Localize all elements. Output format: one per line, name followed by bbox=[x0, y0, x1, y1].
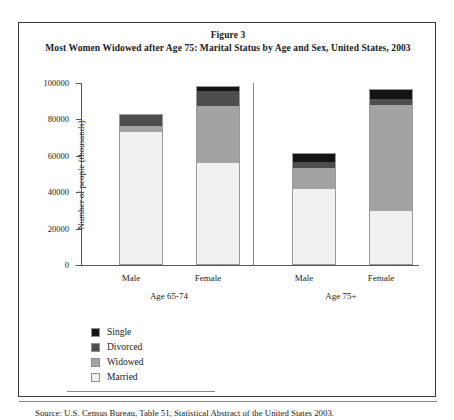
y-tick-20000: 20000 bbox=[76, 229, 81, 230]
legend-swatch-divorced bbox=[91, 343, 100, 352]
legend-label-single: Single bbox=[107, 328, 131, 338]
figure-screenshot: Figure 3 Most Women Widowed after Age 75… bbox=[0, 0, 454, 420]
y-tick-60000: 60000 bbox=[76, 156, 81, 157]
group-label-age-65-74: Age 65-74 bbox=[109, 291, 229, 301]
figure-title: Figure 3 Most Women Widowed after Age 75… bbox=[19, 29, 437, 55]
bar-segment-married bbox=[120, 132, 162, 264]
bar-segment-married bbox=[293, 189, 335, 264]
figure-title-line2: Most Women Widowed after Age 75: Marital… bbox=[19, 42, 437, 55]
x-label-male-65-74: Male bbox=[101, 273, 161, 283]
legend-swatch-single bbox=[91, 328, 100, 337]
y-tick-label-80000: 80000 bbox=[48, 115, 69, 124]
legend-rule bbox=[67, 391, 215, 392]
y-tick-label-20000: 20000 bbox=[48, 224, 69, 233]
y-tick-label-100000: 100000 bbox=[44, 79, 70, 88]
bar-segment-divorced bbox=[120, 115, 162, 126]
bar-segment-single bbox=[370, 90, 412, 99]
y-axis-line bbox=[81, 83, 82, 266]
y-tick-80000: 80000 bbox=[76, 119, 81, 120]
plot-area: Number of people (thousands) 100000 8000… bbox=[81, 83, 419, 266]
bar-male-75plus[interactable] bbox=[292, 153, 336, 265]
group-label-age-75plus: Age 75+ bbox=[281, 291, 401, 301]
bar-segment-married bbox=[197, 163, 239, 264]
figure-title-line1: Figure 3 bbox=[19, 29, 437, 42]
source-rule bbox=[19, 401, 437, 402]
legend-item-married[interactable]: Married bbox=[91, 370, 144, 385]
legend-label-married: Married bbox=[107, 373, 138, 383]
y-tick-40000: 40000 bbox=[76, 192, 81, 193]
x-label-male-75plus: Male bbox=[274, 273, 334, 283]
legend-label-widowed: Widowed bbox=[107, 358, 144, 368]
panel-divider bbox=[253, 83, 254, 266]
figure-frame: Figure 3 Most Women Widowed after Age 75… bbox=[18, 22, 436, 397]
legend-swatch-widowed bbox=[91, 358, 100, 367]
legend-item-single[interactable]: Single bbox=[91, 325, 144, 340]
legend: Single Divorced Widowed Married bbox=[91, 325, 144, 385]
x-axis-line bbox=[81, 265, 419, 266]
bar-segment-widowed bbox=[370, 105, 412, 211]
y-tick-100000: 100000 bbox=[76, 83, 81, 84]
y-tick-label-0: 0 bbox=[65, 261, 69, 270]
bar-female-65-74[interactable] bbox=[196, 86, 240, 265]
bar-segment-married bbox=[370, 211, 412, 264]
legend-item-divorced[interactable]: Divorced bbox=[91, 340, 144, 355]
bar-female-75plus[interactable] bbox=[369, 89, 413, 265]
bar-segment-single bbox=[293, 154, 335, 162]
legend-label-divorced: Divorced bbox=[107, 343, 142, 353]
x-label-female-75plus: Female bbox=[351, 273, 411, 283]
bar-male-65-74[interactable] bbox=[119, 114, 163, 265]
y-tick-label-60000: 60000 bbox=[48, 152, 69, 161]
source-note: Source: U.S. Census Bureau, Table 51, St… bbox=[35, 407, 427, 419]
y-tick-label-40000: 40000 bbox=[48, 188, 69, 197]
bar-segment-widowed bbox=[293, 168, 335, 189]
legend-item-widowed[interactable]: Widowed bbox=[91, 355, 144, 370]
y-tick-0: 0 bbox=[76, 265, 81, 266]
bar-segment-widowed bbox=[197, 106, 239, 164]
x-label-female-65-74: Female bbox=[178, 273, 238, 283]
bar-segment-divorced bbox=[197, 91, 239, 106]
legend-swatch-married bbox=[91, 373, 100, 382]
